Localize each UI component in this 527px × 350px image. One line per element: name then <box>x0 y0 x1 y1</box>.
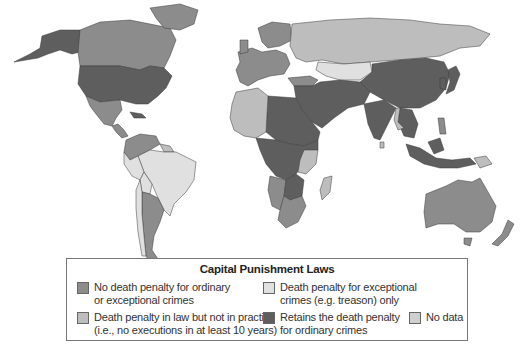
region-southeast-asia <box>398 108 418 138</box>
region-sri-lanka <box>380 142 384 148</box>
region-madagascar <box>320 176 332 200</box>
region-west-africa <box>230 88 268 138</box>
swatch-retains <box>263 312 275 324</box>
region-cuba <box>130 112 146 118</box>
region-guianas <box>160 144 174 152</box>
legend-item-abolished: No death penalty for ordinary or excepti… <box>77 281 230 307</box>
region-kazakhstan <box>316 62 372 80</box>
legend-item-in-law-not-practice: Death penalty in law but not in practice… <box>77 311 277 337</box>
region-borneo <box>428 138 444 154</box>
region-central-america <box>112 124 128 138</box>
region-western-europe <box>236 48 290 86</box>
swatch-abolished <box>77 282 89 294</box>
legend-label: Death penalty in law but not in practice… <box>94 311 277 337</box>
swatch-no-data <box>409 312 421 324</box>
legend-item-exceptional: Death penalty for exceptional crimes (e.… <box>263 281 417 307</box>
region-india <box>364 100 396 140</box>
map-legend: Capital Punishment Laws No death penalty… <box>66 258 468 341</box>
region-russia <box>290 18 490 64</box>
legend-label: No data <box>426 311 463 324</box>
region-china <box>360 58 450 108</box>
legend-label: Death penalty for exceptional crimes (e.… <box>280 281 417 307</box>
legend-label: Retains the death penalty for ordinary c… <box>280 311 400 337</box>
legend-label: No death penalty for ordinary or excepti… <box>94 281 230 307</box>
swatch-in-law-not-practice <box>77 312 89 324</box>
region-png <box>474 156 492 168</box>
region-canada <box>78 20 176 70</box>
region-usa <box>78 66 172 104</box>
swatch-exceptional <box>263 282 275 294</box>
legend-item-no-data: No data <box>409 311 463 324</box>
region-philippines <box>438 118 446 134</box>
region-scandinavia <box>258 22 292 48</box>
region-new-zealand <box>492 220 514 246</box>
region-uk <box>240 40 248 54</box>
legend-title: Capital Punishment Laws <box>67 263 467 275</box>
region-alaska <box>14 30 80 62</box>
legend-item-retains: Retains the death penalty for ordinary c… <box>263 311 400 337</box>
region-australia <box>424 178 496 232</box>
region-korea <box>440 78 446 90</box>
region-turkey <box>288 76 318 86</box>
region-tasmania <box>464 238 472 246</box>
